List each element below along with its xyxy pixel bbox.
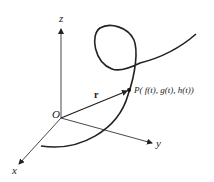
z-axis-label: z: [59, 13, 63, 24]
point-p-marker: [127, 88, 131, 92]
point-p-label: P( f(t), g(t), h(t)): [134, 86, 194, 95]
origin-label: O: [52, 109, 60, 120]
y-axis: [61, 118, 152, 143]
y-axis-label: y: [156, 138, 161, 149]
x-axis-label: x: [12, 165, 17, 176]
space-curve-diagram: z y x O r P( f(t), g(t), h(t)): [0, 0, 214, 182]
vector-r-label: r: [94, 90, 98, 100]
x-axis: [19, 118, 61, 164]
